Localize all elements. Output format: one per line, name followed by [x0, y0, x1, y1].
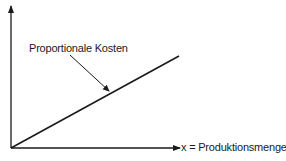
cost-diagram [0, 0, 286, 161]
proportional-cost-line [11, 56, 179, 148]
label-pointer-arrow [70, 55, 109, 91]
line-label: Proportionale Kosten [29, 42, 128, 54]
x-axis-label: x = Produktionsmenge [181, 141, 286, 153]
